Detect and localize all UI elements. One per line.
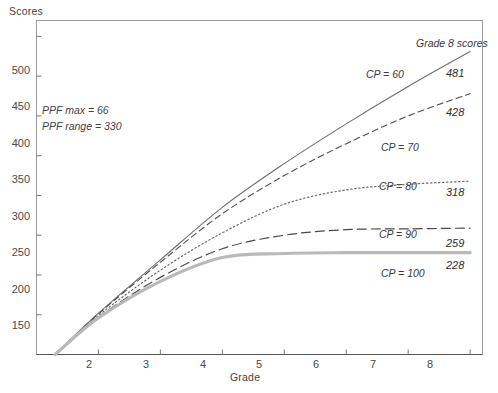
series-line-cp-100 (55, 253, 470, 355)
line-chart: Scores Grade PPF max = 66 PPF range = 33… (0, 0, 498, 393)
series-line-cp-80 (55, 181, 470, 354)
series-paths (55, 52, 470, 355)
series-line-cp-90 (55, 228, 470, 354)
y-tick-marks (37, 36, 42, 314)
series-line-cp-60 (55, 52, 470, 355)
plot-area (0, 0, 498, 393)
chart-frame (37, 21, 483, 355)
x-tick-marks (98, 350, 470, 355)
series-line-cp-70 (55, 94, 470, 355)
